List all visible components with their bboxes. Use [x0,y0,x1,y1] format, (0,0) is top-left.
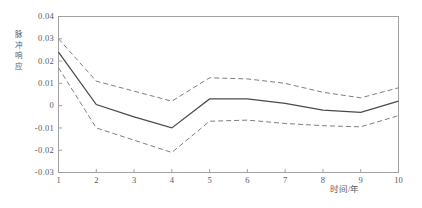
x-tick-label: 4 [170,176,174,185]
x-axis-title: 时间/年 [330,185,359,194]
x-tick-label: 5 [207,176,211,185]
x-tick-label: 7 [283,176,287,185]
impulse-response-chart: 0.040.030.020.010-0.01-0.02-0.03 1234567… [0,0,422,208]
x-tick-label: 6 [245,176,249,185]
x-tick-label: 10 [394,176,403,185]
y-axis-title-char: 响 [15,51,22,60]
x-tick-label: 3 [132,176,136,185]
y-axis-title-char: 脉 [15,30,22,39]
y-axis-title-char: 冲 [15,41,22,50]
y-axis-title-char: 应 [15,62,22,71]
x-tick-label: 1 [56,176,60,185]
x-tick-label: 9 [359,176,363,185]
x-tick-label: 2 [94,176,98,185]
y-axis-title: 脉冲响应 [13,30,24,72]
x-tick-label: 8 [321,176,325,185]
x-axis-tick-labels: 12345678910 [0,0,422,208]
